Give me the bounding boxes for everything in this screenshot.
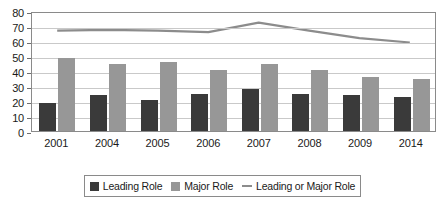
y-tick-label: 30: [12, 83, 24, 94]
bar-major-role-2009: [362, 77, 379, 131]
bar-leading-role-2007: [242, 89, 259, 131]
legend-item-leading-role[interactable]: Leading Role: [90, 181, 162, 192]
y-tick-label: 10: [12, 113, 24, 124]
y-tick-label: 70: [12, 23, 24, 34]
x-tick-label-2007: 2007: [247, 137, 271, 149]
bar-major-role-2006: [210, 70, 227, 132]
x-tick-label-2006: 2006: [196, 137, 220, 149]
y-tick-label: 40: [12, 68, 24, 79]
legend-label: Leading or Major Role: [256, 181, 355, 192]
legend-item-leading-or-major-role[interactable]: Leading or Major Role: [242, 181, 355, 192]
x-tick-label-2005: 2005: [146, 137, 170, 149]
chart-legend: Leading RoleMajor RoleLeading or Major R…: [84, 175, 361, 197]
x-tick-label-2001: 2001: [44, 137, 68, 149]
bar-major-role-2001: [58, 58, 75, 131]
x-axis: 20012004200520062007200820092014: [31, 134, 436, 154]
x-tick-label-2008: 2008: [297, 137, 321, 149]
bar-major-role-2008: [311, 70, 328, 131]
legend-label: Major Role: [184, 181, 233, 192]
bar-major-role-2014: [413, 79, 430, 132]
line-gray-icon: [242, 185, 252, 187]
bar-leading-role-2005: [141, 100, 158, 132]
bar-leading-role-2014: [394, 97, 411, 132]
bar-group-2004: [90, 13, 126, 131]
square-dark-icon: [90, 182, 99, 191]
bar-group-2009: [343, 13, 379, 131]
bar-group-2005: [141, 13, 177, 131]
bar-group-2014: [394, 13, 430, 131]
legend-item-major-role[interactable]: Major Role: [171, 181, 233, 192]
bar-group-2008: [292, 13, 328, 131]
y-tick-label: 80: [12, 8, 24, 19]
bar-leading-role-2009: [343, 95, 360, 131]
x-tick-label-2009: 2009: [348, 137, 372, 149]
y-tick-label: 20: [12, 98, 24, 109]
bar-leading-role-2001: [39, 103, 56, 132]
plot-area: [31, 12, 436, 132]
bar-group-2006: [191, 13, 227, 131]
bar-major-role-2005: [160, 62, 177, 131]
bar-leading-role-2004: [90, 95, 107, 131]
bar-leading-role-2008: [292, 94, 309, 131]
bar-group-2001: [39, 13, 75, 131]
x-tick-label-2004: 2004: [95, 137, 119, 149]
bar-group-2007: [242, 13, 278, 131]
bar-major-role-2004: [109, 64, 126, 131]
y-axis: 80706050403020100: [0, 12, 31, 133]
bar-major-role-2007: [261, 64, 278, 132]
y-tick-label: 60: [12, 38, 24, 49]
y-tick-label: 50: [12, 53, 24, 64]
bar-leading-role-2006: [191, 94, 208, 132]
legend-label: Leading Role: [103, 181, 162, 192]
square-gray-icon: [171, 182, 180, 191]
y-tick-label: 0: [18, 128, 24, 139]
x-tick-label-2014: 2014: [399, 137, 423, 149]
chart-container: 80706050403020100 2001200420052006200720…: [0, 0, 445, 207]
